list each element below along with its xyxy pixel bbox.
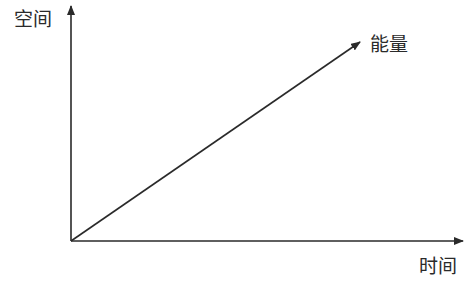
vector-label: 能量 (370, 35, 408, 54)
energy-vector (71, 42, 360, 241)
x-axis-label: 时间 (419, 257, 457, 276)
y-axis-label: 空间 (14, 10, 52, 29)
